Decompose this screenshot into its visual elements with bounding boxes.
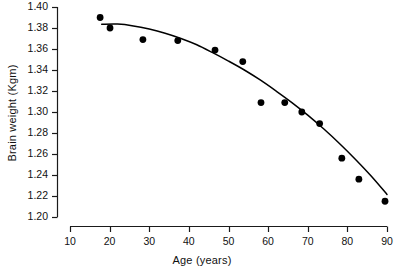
data-point-marker (382, 198, 389, 205)
x-tick-label: 40 (174, 235, 204, 247)
x-tick-label: 50 (214, 235, 244, 247)
chart-figure: 1.401.381.361.341.321.301.281.261.241.22… (0, 0, 404, 277)
y-axis-title: Brain weight (Kgm) (6, 13, 18, 213)
data-point-marker (140, 36, 147, 43)
fitted-trend-line (102, 24, 387, 194)
data-point-marker (298, 109, 305, 116)
y-tick-label: 1.40 (14, 0, 48, 12)
y-axis-ticks (52, 8, 58, 218)
data-point-marker (338, 155, 345, 162)
x-tick-label: 90 (372, 235, 402, 247)
data-point-marker (258, 99, 265, 106)
y-axis-title-wrapper: Brain weight (Kgm) (6, 13, 22, 213)
data-point-marker (97, 14, 104, 21)
data-point-group (97, 14, 389, 205)
x-tick-label: 60 (253, 235, 283, 247)
data-point-marker (281, 99, 288, 106)
data-point-marker (174, 37, 181, 44)
x-tick-label: 70 (293, 235, 323, 247)
data-point-marker (239, 58, 246, 65)
x-tick-label: 80 (332, 235, 362, 247)
x-tick-label: 30 (134, 235, 164, 247)
data-point-marker (107, 25, 114, 32)
data-point-marker (316, 120, 323, 127)
x-tick-label: 10 (55, 235, 85, 247)
x-tick-label: 20 (95, 235, 125, 247)
x-axis-title: Age (years) (0, 254, 404, 266)
x-axis-ticks (71, 227, 388, 233)
data-point-marker (355, 176, 362, 183)
data-point-marker (212, 47, 219, 54)
